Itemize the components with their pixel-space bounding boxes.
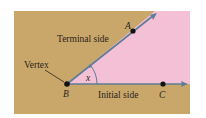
point-b-label: B (63, 89, 69, 99)
point-c-label: C (159, 90, 166, 100)
point-a-label: A (124, 21, 131, 31)
vertex-label: Vertex (24, 60, 49, 70)
angle-diagram: Terminal side Vertex Initial side x A B … (0, 0, 206, 118)
point-a-dot (130, 28, 135, 33)
point-c-dot (160, 81, 165, 86)
initial-side-label: Initial side (98, 90, 138, 100)
point-b-dot (64, 81, 70, 87)
angle-label: x (85, 73, 91, 83)
terminal-side-label: Terminal side (57, 34, 109, 44)
